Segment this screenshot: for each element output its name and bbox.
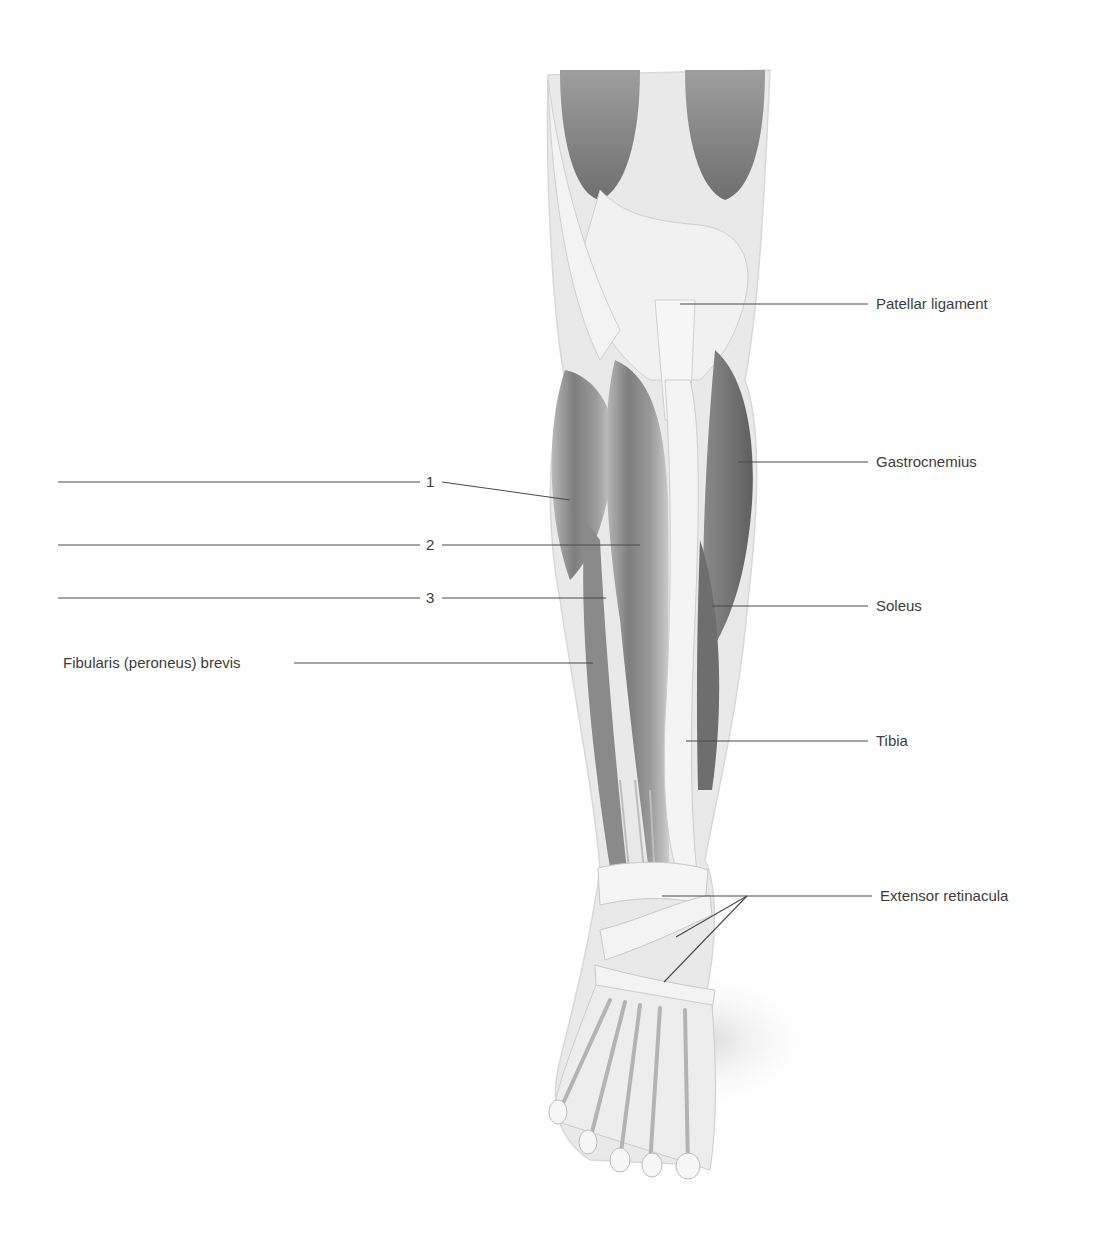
- label-patellar-ligament: Patellar ligament: [874, 295, 990, 313]
- label-number-2: 2: [424, 536, 436, 554]
- label-soleus: Soleus: [874, 597, 924, 615]
- leg-anatomy-figure: Patellar ligament Gastrocnemius Soleus T…: [0, 0, 1102, 1241]
- superior-extensor-retinaculum: [598, 862, 708, 905]
- label-extensor-retinacula: Extensor retinacula: [878, 887, 1010, 905]
- label-tibia: Tibia: [874, 732, 910, 750]
- label-gastrocnemius: Gastrocnemius: [874, 453, 979, 471]
- label-fibularis-brevis: Fibularis (peroneus) brevis: [61, 654, 243, 672]
- label-number-3: 3: [424, 589, 436, 607]
- leg-illustration: [0, 0, 1102, 1241]
- label-number-1: 1: [424, 473, 436, 491]
